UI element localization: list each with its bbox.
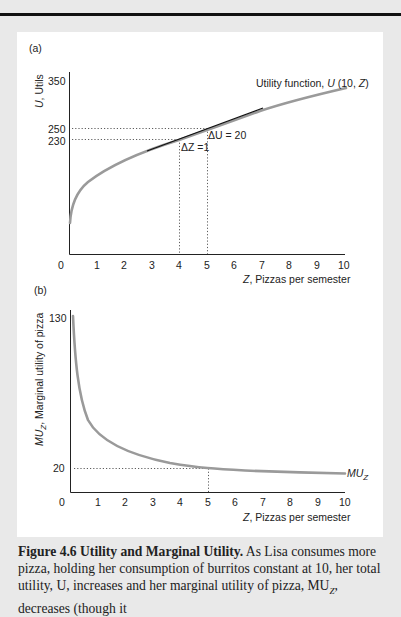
- chart-b: (b) MUZ, Marginal utility of pizza 130 2…: [33, 284, 369, 523]
- y-tick-350: 350: [48, 75, 66, 87]
- panel-a-label: (a): [29, 42, 42, 54]
- dotted-guides-b: [74, 469, 209, 493]
- svg-text:1: 1: [94, 259, 100, 271]
- svg-text:0: 0: [58, 259, 64, 271]
- y-tick-20: 20: [53, 462, 65, 474]
- panel-b-label: (b): [34, 284, 47, 296]
- svg-text:3: 3: [149, 259, 155, 271]
- marginal-utility-curve: [73, 316, 345, 474]
- y-tick-250: 250: [48, 123, 66, 135]
- svg-text:7: 7: [259, 259, 265, 271]
- svg-text:10: 10: [338, 259, 350, 271]
- svg-text:7: 7: [260, 496, 266, 508]
- x-ticks-b: 0 1 2 3 4 5 6 7 8 9 10: [59, 496, 351, 508]
- y-axis-label-a: U, Utils: [33, 74, 45, 108]
- delta-u-label: ΔU = 20: [208, 129, 246, 141]
- svg-text:9: 9: [314, 259, 320, 271]
- x-axis-label-b: Z, Pizzas per semester: [242, 511, 351, 523]
- svg-text:6: 6: [232, 496, 238, 508]
- chart-a: (a) U, Utils 350 250 230 ΔU = 20 ΔZ =1 U…: [29, 42, 369, 285]
- utility-curve: [70, 88, 346, 223]
- svg-text:4: 4: [177, 496, 183, 508]
- svg-text:0: 0: [59, 496, 65, 508]
- svg-text:4: 4: [176, 259, 182, 271]
- svg-text:2: 2: [121, 259, 127, 271]
- svg-text:6: 6: [231, 259, 237, 271]
- y-tick-230: 230: [48, 135, 66, 147]
- delta-z-label: ΔZ =1: [181, 141, 209, 153]
- curve-label-a: Utility function, U (10, Z): [256, 77, 369, 89]
- svg-text:10: 10: [339, 496, 351, 508]
- x-axis-label-a: Z, Pizzas per semester: [242, 273, 351, 285]
- svg-text:9: 9: [315, 496, 321, 508]
- figure-caption: Figure 4.6 Utility and Marginal Utility.…: [18, 543, 388, 617]
- y-tick-130: 130: [49, 312, 67, 324]
- caption-title: Figure 4.6 Utility and Marginal Utility.: [18, 544, 243, 559]
- svg-text:8: 8: [287, 496, 293, 508]
- svg-text:3: 3: [150, 496, 156, 508]
- svg-text:1: 1: [95, 496, 101, 508]
- curve-label-b: MUZ: [347, 467, 369, 482]
- svg-text:8: 8: [286, 259, 292, 271]
- y-axis-label-b: MUZ, Marginal utility of pizza: [33, 313, 48, 446]
- x-ticks-a: 0 1 2 3 4 5 6 7 8 9 10: [58, 259, 350, 271]
- svg-text:5: 5: [205, 496, 211, 508]
- svg-text:5: 5: [204, 259, 210, 271]
- svg-text:2: 2: [122, 496, 128, 508]
